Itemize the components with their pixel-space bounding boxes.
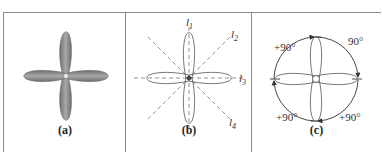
panel-b: l1 l2 l3 l4 (b): [125, 12, 252, 152]
caption-b: (b): [126, 123, 252, 138]
caption-c: (c): [252, 123, 381, 138]
label-l3: l3: [239, 72, 246, 87]
panel-a: (a): [3, 12, 126, 152]
panel-c: +90° 90° +90° +90° (c): [251, 12, 381, 152]
label-l2: l2: [231, 28, 238, 43]
top-margin: [0, 0, 378, 12]
label-rotation-top-right: 90°: [348, 35, 363, 47]
label-l1: l1: [186, 16, 193, 31]
caption-a: (a): [4, 123, 126, 138]
label-rotation-bottom-right: +90°: [339, 111, 361, 123]
label-rotation-top-left: +90°: [274, 41, 296, 53]
label-rotation-bottom-left: +90°: [276, 111, 298, 123]
